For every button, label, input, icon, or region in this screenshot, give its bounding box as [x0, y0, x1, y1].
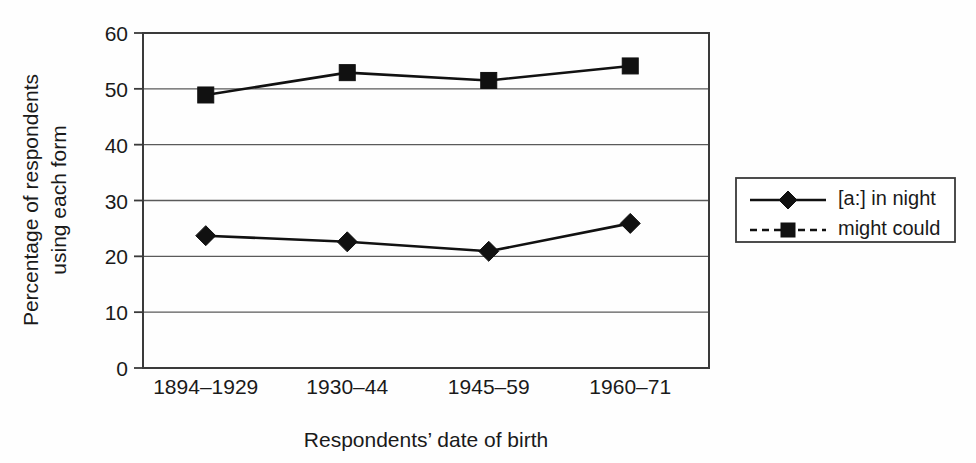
y-axis-title: Percentage of respondents using each for… — [19, 74, 70, 326]
x-tick-label: 1945–59 — [448, 375, 530, 398]
legend-label: might could — [838, 217, 940, 239]
legend-label: [a:] in night — [838, 187, 936, 209]
legend-marker-square — [781, 223, 795, 237]
legend: [a:] in nightmight could — [736, 178, 955, 242]
y-tick-label: 10 — [105, 301, 128, 324]
y-tick-label: 20 — [105, 245, 128, 268]
series-line — [206, 223, 631, 251]
y-tick-label: 0 — [116, 357, 128, 380]
series-line — [206, 66, 631, 95]
y-tick-layer: 0102030405060 — [105, 22, 143, 380]
x-tick-label: 1894–1929 — [153, 375, 258, 398]
data-point-marker — [337, 232, 357, 252]
data-point-marker — [479, 241, 499, 261]
y-axis-title-line2: using each form — [47, 125, 70, 274]
x-tick-layer: 1894–19291930–441945–591960–71 — [153, 375, 671, 398]
grid-layer — [143, 33, 709, 368]
x-axis-title: Respondents’ date of birth — [304, 428, 548, 451]
data-point-marker — [196, 226, 216, 246]
y-tick-label: 40 — [105, 134, 128, 157]
y-tick-label: 50 — [105, 78, 128, 101]
series-2 — [198, 58, 639, 103]
y-axis-title-line1: Percentage of respondents — [19, 74, 42, 326]
x-tick-label: 1930–44 — [306, 375, 388, 398]
x-tick-label: 1960–71 — [589, 375, 671, 398]
series-1 — [196, 213, 641, 261]
line-chart: Percentage of respondents using each for… — [0, 0, 976, 463]
chart-figure: Percentage of respondents using each for… — [0, 0, 976, 463]
data-point-marker — [620, 213, 640, 233]
y-tick-label: 30 — [105, 190, 128, 213]
data-point-marker — [198, 87, 214, 103]
data-point-marker — [339, 65, 355, 81]
data-point-marker — [622, 58, 638, 74]
data-point-marker — [481, 72, 497, 88]
y-tick-label: 60 — [105, 22, 128, 45]
